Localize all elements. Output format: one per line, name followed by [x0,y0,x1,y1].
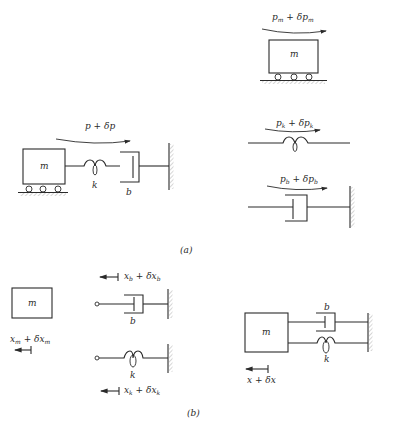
mass-label: m [28,298,37,308]
wall-hatch [170,144,174,189]
system-a: p + δp m k b [18,121,174,197]
spring-icon [99,351,168,358]
force-arrow-icon [265,129,320,132]
mass-label: m [40,161,49,171]
wall-hatch [351,187,355,227]
spring-label: k [92,180,97,190]
system-force-label: p + δp [85,121,115,131]
fb-damper-b: xb + δxb b [95,271,173,326]
wheel-icon [55,186,61,192]
spring-disp-label: xk + δxk [124,385,160,396]
wall-hatch [369,314,373,351]
spring-icon [248,137,350,143]
mechanical-system-diagram: pm + δpm m p + δp m k b pk + δpk [0,0,394,435]
mass-label: m [262,327,271,337]
spring-label: k [130,370,135,380]
caption-a: (a) [180,245,193,255]
node-icon [95,302,99,306]
ground-hatch [262,81,325,84]
force-arrow-icon [56,139,130,143]
fb-mass-b: m xm + δxm [10,288,52,354]
wheel-icon [291,74,297,80]
damper-cylinder [285,195,307,221]
wheel-icon [306,74,312,80]
damper-label: b [126,187,132,197]
spring-coil [93,165,97,175]
wall-hatch [169,345,173,372]
damper-label: b [324,302,330,312]
caption-b: (b) [187,408,200,418]
wheel-icon [275,74,281,80]
wall-hatch [169,290,173,318]
system-b: m b k x + δx [245,302,373,385]
force-arrow-icon [267,186,327,190]
damper-label: b [130,316,136,326]
mass-disp-label: xm + δxm [10,334,51,345]
combined-disp-label: x + δx [247,375,276,385]
spring-icon [65,160,120,166]
wheel-icon [26,186,32,192]
wheel-icon [40,186,46,192]
fb-spring-b: k xk + δxk [95,344,173,396]
fb-mass-force-label: pm + δpm [272,12,314,23]
fb-spring-force-label: pk + δpk [276,118,314,129]
fb-damper-a: pb + δpb [248,174,355,228]
damper-cylinder [120,152,139,182]
spring-label: k [324,354,329,364]
node-icon [95,356,99,360]
fb-spring-a: pk + δpk [248,118,350,152]
force-arrow-icon [262,29,326,33]
fb-mass-a: pm + δpm m [260,12,327,84]
mass-label: m [290,49,299,59]
damper-disp-label: xb + δxb [124,271,161,282]
ground-hatch [20,193,66,196]
fb-damper-force-label: pb + δpb [280,174,318,185]
